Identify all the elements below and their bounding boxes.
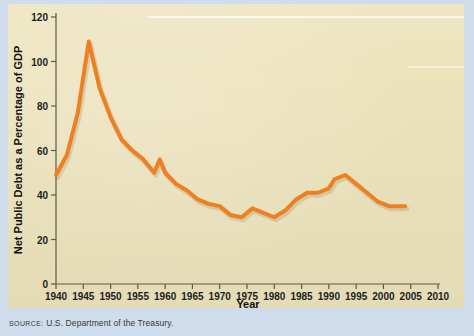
x-tick-label: 2005 [400,291,423,302]
y-tick-label: 0 [42,279,48,290]
x-tick-label: 1985 [290,291,313,302]
y-tick-label: 80 [37,101,49,112]
x-tick-label: 1940 [45,291,68,302]
x-tick-label: 1995 [345,291,368,302]
y-axis-ticks: 020406080100120 [31,12,56,290]
x-tick-label: 1945 [72,291,95,302]
x-tick-label: 2010 [427,291,450,302]
series-shadow [58,44,407,220]
y-tick-label: 60 [37,146,49,157]
source-text: U.S. Department of the Treasury. [46,318,173,328]
y-tick-label: 120 [31,12,48,23]
debt-series-line [56,41,405,217]
figure-container: Net Public Debt as a Percentage of GDP 0… [0,0,474,336]
x-tick-label: 1960 [154,291,177,302]
source-note: Source: U.S. Department of the Treasury. [9,318,173,328]
x-tick-label: 1965 [181,291,204,302]
x-tick-label: 1990 [318,291,341,302]
x-tick-label: 1955 [127,291,150,302]
x-tick-label: 1970 [209,291,232,302]
y-tick-label: 20 [37,235,49,246]
y-axis-title: Net Public Debt as a Percentage of GDP [12,46,24,254]
x-tick-label: 1980 [263,291,286,302]
x-axis-title: Year [236,298,260,310]
y-tick-label: 100 [31,57,48,68]
x-tick-label: 1950 [99,291,122,302]
source-label: Source: [9,320,44,327]
y-tick-label: 40 [37,190,49,201]
line-chart: Net Public Debt as a Percentage of GDP 0… [0,0,474,336]
x-tick-label: 2000 [372,291,395,302]
